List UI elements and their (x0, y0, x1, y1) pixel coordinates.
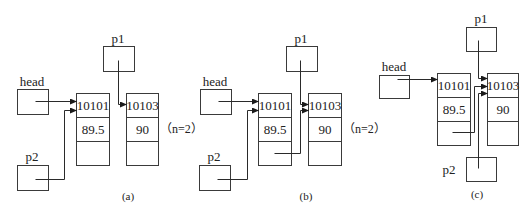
p2-box (18, 166, 49, 191)
node-num-value: 10101 (438, 78, 471, 93)
node-field-next (127, 142, 159, 166)
p1-pointer: p1 (287, 31, 318, 72)
node-score-value: 89.5 (264, 122, 287, 137)
count-note: （n=2） (160, 122, 203, 136)
p2-pointer: p2 (18, 149, 49, 191)
p2-pointer: p2 (200, 149, 231, 191)
panel-caption: (a) (122, 190, 135, 203)
panel-a: headp1p21010189.51010390（n=2）(a) (18, 31, 203, 203)
head-pointer: head (201, 74, 232, 115)
head-label: head (382, 59, 407, 74)
linked-list-diagram: headp1p21010189.51010390（n=2）(a)headp1p2… (0, 0, 532, 216)
list-node-1: 1010189.5 (438, 74, 471, 146)
p2-label: p2 (26, 149, 39, 164)
head-box (380, 76, 410, 99)
panel-c: headp1p21010189.51010390(c) (380, 11, 520, 201)
diagram-canvas: headp1p21010189.51010390（n=2）(a)headp1p2… (0, 0, 532, 216)
node-num-value: 10103 (309, 98, 342, 113)
p2-label: p2 (443, 162, 456, 177)
list-node-2: 1010390 (309, 94, 342, 166)
node-num-value: 10103 (126, 98, 159, 113)
head-pointer: head (18, 74, 49, 115)
node-field-next (77, 142, 110, 166)
p1-label: p1 (475, 11, 488, 26)
p1-pointer: p1 (467, 11, 497, 52)
list-node-2: 1010390 (487, 74, 520, 146)
p2-pointer: p2 (443, 158, 497, 182)
panel-b: headp1p21010189.51010390（n=2）(b) (200, 31, 386, 203)
node-num-value: 10103 (487, 78, 520, 93)
p2-label: p2 (208, 149, 221, 164)
node-score-value: 90 (319, 122, 332, 137)
head-label: head (20, 74, 45, 89)
node-score-value: 90 (136, 122, 149, 137)
node-score-value: 89.5 (443, 102, 466, 117)
node-num-value: 10101 (259, 98, 292, 113)
p1-label: p1 (295, 31, 308, 46)
list-node-2: 1010390 (126, 94, 159, 166)
p2-box (467, 158, 497, 182)
p1-box (287, 47, 318, 72)
p1-label: p1 (112, 31, 125, 46)
node-field-next (488, 122, 519, 146)
node-score-value: 90 (497, 102, 510, 117)
panel-caption: (b) (300, 190, 313, 203)
count-note: （n=2） (343, 122, 386, 136)
head-label: head (203, 74, 228, 89)
list-node-1: 1010189.5 (259, 94, 292, 166)
node-field-next (438, 122, 471, 146)
node-num-value: 10101 (77, 98, 110, 113)
node-field-next (309, 142, 342, 166)
list-node-1: 1010189.5 (77, 94, 110, 166)
p2-box (200, 166, 231, 191)
panel-caption: (c) (471, 188, 484, 201)
p1-box (467, 28, 497, 52)
head-pointer: head (380, 59, 410, 99)
node-score-value: 89.5 (82, 122, 105, 137)
